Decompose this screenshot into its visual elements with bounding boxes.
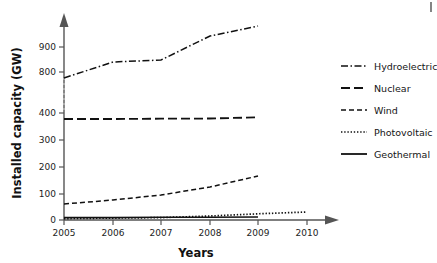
y-tick-label-100: 100 <box>39 189 56 199</box>
series-line-geothermal <box>64 217 258 218</box>
line-chart-canvas: 900 800 400 300 200 100 0 2005 2006 2007… <box>0 0 437 263</box>
x-tick-label-2007: 2007 <box>150 228 173 238</box>
series-line-wind <box>64 176 258 204</box>
y-tick-label-0: 0 <box>50 215 56 225</box>
y-tick-marks <box>59 47 64 220</box>
x-axis-arrowhead <box>325 216 339 225</box>
y-tick-label-900: 900 <box>39 42 56 52</box>
y-tick-label-300: 300 <box>39 135 56 145</box>
y-tick-label-200: 200 <box>39 162 56 172</box>
x-tick-label-2005: 2005 <box>53 228 76 238</box>
legend-item-hydroelectric[interactable]: Hydroelectric <box>341 61 437 72</box>
legend-item-nuclear[interactable]: Nuclear <box>341 83 411 94</box>
legend-item-wind[interactable]: Wind <box>341 105 398 116</box>
x-tick-label-2008: 2008 <box>199 228 222 238</box>
x-tick-label-2009: 2009 <box>247 228 270 238</box>
series-line-nuclear <box>64 117 258 119</box>
x-tick-label-2006: 2006 <box>102 228 125 238</box>
series-line-hydroelectric <box>64 26 258 78</box>
chart-legend: Hydroelectric Nuclear Wind Photovoltaic … <box>341 61 437 160</box>
y-axis-arrowhead <box>60 13 69 27</box>
legend-label-geothermal: Geothermal <box>374 149 430 160</box>
legend-label-hydroelectric: Hydroelectric <box>374 61 437 72</box>
legend-label-nuclear: Nuclear <box>374 83 411 94</box>
y-axis <box>60 13 69 220</box>
legend-item-photovoltaic[interactable]: Photovoltaic <box>341 127 433 138</box>
legend-label-wind: Wind <box>374 105 398 116</box>
x-tick-marks <box>64 220 307 225</box>
y-axis-title: Installed capacity (GW) <box>10 47 24 198</box>
chart-figure: 900 800 400 300 200 100 0 2005 2006 2007… <box>0 0 437 263</box>
y-tick-label-800: 800 <box>39 67 56 77</box>
x-tick-labels: 2005 2006 2007 2008 2009 2010 <box>53 228 319 238</box>
y-tick-label-400: 400 <box>39 108 56 118</box>
x-tick-label-2010: 2010 <box>296 228 319 238</box>
x-axis-title: Years <box>177 246 214 260</box>
y-tick-labels: 900 800 400 300 200 100 0 <box>39 42 56 225</box>
legend-label-photovoltaic: Photovoltaic <box>374 127 433 138</box>
legend-item-geothermal[interactable]: Geothermal <box>341 149 430 160</box>
